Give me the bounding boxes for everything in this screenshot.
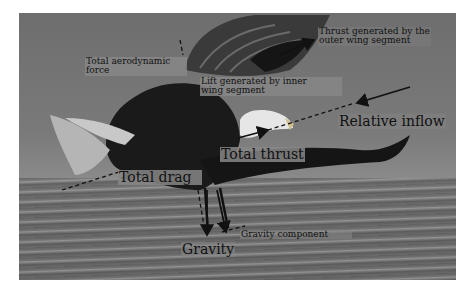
label-gravity-component: Gravity component [240,230,352,239]
label-line: outer wing segment [319,36,430,45]
label-gravity: Gravity [181,242,235,257]
label-total-thrust: Total thrust [220,147,305,162]
label-relative-inflow: Relative inflow [338,114,446,129]
label-line: wing segment [201,86,341,95]
label-total-aerodynamic-force: Total aerodynamic force [85,57,187,76]
relative-inflow-arrow [357,87,410,103]
label-line: force [86,66,186,75]
label-lift-inner-wing: Lift generated by inner wing segment [200,77,342,96]
upper-wing-shape [185,15,330,76]
label-total-drag: Total drag [118,170,202,185]
label-thrust-outer-wing: Thrust generated by the outer wing segme… [318,27,431,46]
